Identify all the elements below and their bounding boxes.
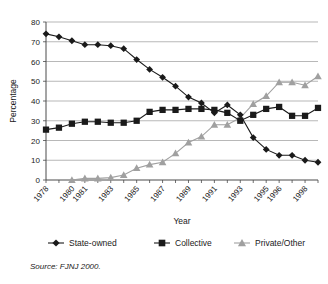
source-note: Source: FJNJ 2000. bbox=[30, 262, 101, 271]
data-point-square bbox=[250, 112, 256, 118]
x-tick-label: 1991 bbox=[200, 184, 219, 204]
series-line bbox=[72, 76, 318, 180]
series-private-other bbox=[68, 73, 322, 183]
data-point-square bbox=[159, 240, 166, 247]
legend-label: Private/Other bbox=[255, 238, 305, 248]
x-axis-title: Year bbox=[173, 216, 190, 226]
data-point-diamond bbox=[43, 30, 50, 37]
x-tick-label: 1989 bbox=[174, 184, 193, 204]
y-tick-label: 50 bbox=[31, 77, 40, 86]
legend-item-state-owned[interactable]: State-owned bbox=[48, 238, 117, 248]
data-point-diamond bbox=[315, 159, 322, 166]
data-point-square bbox=[224, 110, 230, 116]
legend-label: Collective bbox=[175, 238, 212, 248]
x-axis-tick-labels: 1978198019811983198519871989199119931995… bbox=[32, 184, 310, 204]
data-point-square bbox=[198, 106, 204, 112]
y-tick-label: 20 bbox=[31, 137, 40, 146]
x-tick-label: 1983 bbox=[97, 184, 116, 204]
series-collective bbox=[43, 104, 321, 133]
data-point-square bbox=[159, 107, 165, 113]
y-axis-tick-labels: 01020304050607080 bbox=[31, 18, 40, 185]
legend-label: State-owned bbox=[69, 238, 117, 248]
y-tick-label: 60 bbox=[31, 58, 40, 67]
data-point-diamond bbox=[107, 42, 114, 49]
data-point-triangle bbox=[185, 139, 193, 146]
data-point-diamond bbox=[94, 41, 101, 48]
x-tick-label: 1981 bbox=[71, 184, 90, 204]
data-point-square bbox=[95, 119, 101, 125]
percentage-by-ownership-line-chart: 01020304050607080 1978198019811983198519… bbox=[0, 0, 328, 284]
data-point-diamond bbox=[69, 37, 76, 44]
data-point-square bbox=[315, 105, 321, 111]
chart-legend: State-ownedCollectivePrivate/Other bbox=[48, 238, 305, 248]
y-tick-label: 70 bbox=[31, 38, 40, 47]
data-point-square bbox=[43, 127, 49, 133]
data-point-diamond bbox=[56, 33, 63, 40]
series-line bbox=[46, 34, 318, 162]
data-point-diamond bbox=[302, 157, 309, 164]
data-point-square bbox=[146, 109, 152, 115]
data-point-triangle bbox=[120, 171, 128, 178]
data-point-square bbox=[263, 106, 269, 112]
legend-item-private-other[interactable]: Private/Other bbox=[234, 238, 305, 248]
series-line bbox=[46, 107, 318, 130]
chart-container: 01020304050607080 1978198019811983198519… bbox=[0, 0, 328, 284]
y-tick-label: 30 bbox=[31, 117, 40, 126]
y-tick-label: 10 bbox=[31, 156, 40, 165]
x-tick-label: 1987 bbox=[148, 184, 167, 204]
y-axis-title: Percentage bbox=[8, 79, 18, 123]
data-point-triangle bbox=[314, 73, 322, 80]
data-point-diamond bbox=[276, 152, 283, 159]
x-tick-label: 1985 bbox=[123, 184, 142, 204]
data-point-square bbox=[276, 104, 282, 110]
y-tick-label: 80 bbox=[31, 18, 40, 27]
data-point-square bbox=[134, 118, 140, 124]
data-point-square bbox=[185, 106, 191, 112]
data-point-square bbox=[121, 120, 127, 126]
data-point-square bbox=[289, 113, 295, 119]
data-point-triangle bbox=[159, 158, 167, 165]
data-point-diamond bbox=[289, 152, 296, 159]
x-tick-label: 1993 bbox=[226, 184, 245, 204]
x-tick-label: 1998 bbox=[291, 184, 310, 204]
data-point-square bbox=[56, 125, 62, 131]
data-point-diamond bbox=[52, 239, 59, 246]
data-point-square bbox=[69, 121, 75, 127]
data-point-square bbox=[108, 120, 114, 126]
series-state-owned bbox=[43, 30, 322, 165]
x-tick-label: 1978 bbox=[32, 184, 51, 204]
data-point-square bbox=[172, 107, 178, 113]
data-point-square bbox=[302, 113, 308, 119]
y-tick-label: 0 bbox=[36, 176, 41, 185]
y-tick-label: 40 bbox=[31, 97, 40, 106]
x-tick-label: 1996 bbox=[265, 184, 284, 204]
data-point-diamond bbox=[159, 74, 166, 81]
legend-item-collective[interactable]: Collective bbox=[154, 238, 212, 248]
data-point-square bbox=[82, 119, 88, 125]
data-point-diamond bbox=[81, 41, 88, 48]
